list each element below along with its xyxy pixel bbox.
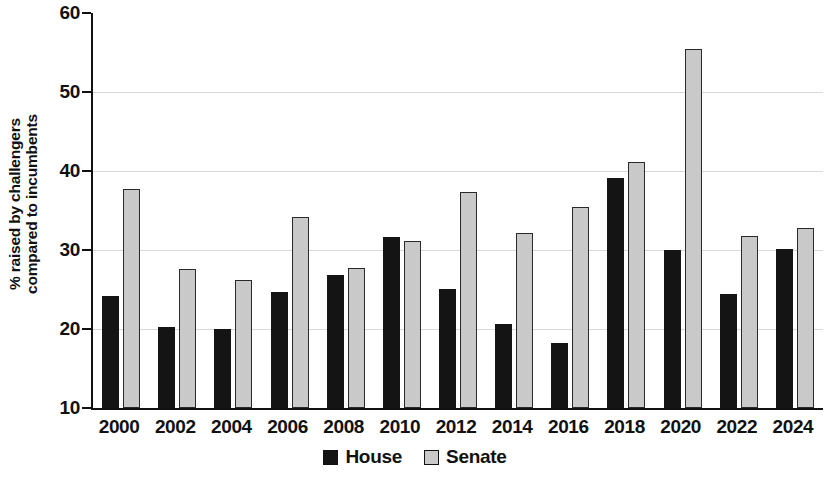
- bar-group-2024: [767, 13, 823, 408]
- bar-group-2006: [261, 13, 317, 408]
- bar-group-2004: [205, 13, 261, 408]
- bar-group-2000: [93, 13, 149, 408]
- bar-house-2012[interactable]: [439, 289, 456, 408]
- bar-group-2016: [542, 13, 598, 408]
- y-tick-label-60: 60: [40, 2, 80, 24]
- x-tick-label-2006: 2006: [259, 414, 315, 444]
- bar-group-2022: [711, 13, 767, 408]
- chart-legend: House Senate: [0, 446, 830, 468]
- bar-senate-2004[interactable]: [235, 280, 252, 408]
- legend-swatch-senate-icon: [424, 450, 439, 465]
- x-tick-label-2024: 2024: [765, 414, 821, 444]
- y-tick-mark-40: [82, 170, 91, 172]
- x-tick-label-2012: 2012: [428, 414, 484, 444]
- y-tick-label-10: 10: [40, 397, 80, 419]
- bar-senate-2012[interactable]: [460, 192, 477, 409]
- plot-area: [91, 13, 823, 410]
- bar-senate-2016[interactable]: [572, 207, 589, 409]
- x-tick-label-2018: 2018: [596, 414, 652, 444]
- x-tick-label-2020: 2020: [653, 414, 709, 444]
- x-tick-label-2002: 2002: [147, 414, 203, 444]
- legend-item-house: House: [323, 446, 402, 468]
- y-tick-label-20: 20: [40, 318, 80, 340]
- y-tick-label-40: 40: [40, 160, 80, 182]
- bar-group-2014: [486, 13, 542, 408]
- bar-house-2016[interactable]: [551, 343, 568, 408]
- legend-swatch-house-icon: [323, 450, 338, 465]
- legend-label-senate: Senate: [446, 446, 507, 468]
- bar-senate-2024[interactable]: [797, 228, 814, 408]
- x-tick-label-2008: 2008: [316, 414, 372, 444]
- y-axis-ticks: 60 50 40 30 20 10: [40, 0, 80, 477]
- bar-house-2004[interactable]: [214, 329, 231, 408]
- bar-senate-2010[interactable]: [404, 241, 421, 408]
- bar-senate-2022[interactable]: [741, 236, 758, 408]
- bar-group-2002: [149, 13, 205, 408]
- bar-house-2018[interactable]: [607, 178, 624, 408]
- y-tick-label-30: 30: [40, 239, 80, 261]
- y-axis-title-line-2: compared to incumbents: [23, 114, 40, 294]
- bar-group-2020: [655, 13, 711, 408]
- bar-senate-2008[interactable]: [348, 268, 365, 408]
- y-tick-label-50: 50: [40, 81, 80, 103]
- x-tick-label-2022: 2022: [709, 414, 765, 444]
- bar-house-2008[interactable]: [327, 275, 344, 409]
- y-axis-title-line-1: % raised by challengers: [6, 118, 23, 290]
- bar-house-2022[interactable]: [720, 294, 737, 408]
- bar-chart: % raised by challengers compared to incu…: [0, 0, 830, 477]
- bar-senate-2006[interactable]: [292, 217, 309, 408]
- x-tick-label-2010: 2010: [372, 414, 428, 444]
- bar-senate-2014[interactable]: [516, 233, 533, 408]
- bar-house-2014[interactable]: [495, 324, 512, 408]
- legend-item-senate: Senate: [424, 446, 507, 468]
- bar-groups: [93, 13, 823, 408]
- bar-senate-2018[interactable]: [628, 162, 645, 408]
- bar-group-2008: [318, 13, 374, 408]
- y-tick-mark-50: [82, 91, 91, 93]
- bar-senate-2002[interactable]: [179, 269, 196, 408]
- bar-house-2000[interactable]: [102, 296, 119, 408]
- bar-house-2024[interactable]: [776, 249, 793, 408]
- x-tick-label-2004: 2004: [203, 414, 259, 444]
- x-axis-labels: 2000200220042006200820102012201420162018…: [91, 414, 821, 444]
- x-tick-label-2014: 2014: [484, 414, 540, 444]
- bar-house-2020[interactable]: [664, 250, 681, 408]
- y-tick-mark-10: [82, 407, 91, 409]
- legend-label-house: House: [345, 446, 402, 468]
- x-tick-label-2000: 2000: [91, 414, 147, 444]
- bar-house-2010[interactable]: [383, 237, 400, 408]
- bar-house-2002[interactable]: [158, 327, 175, 408]
- bar-group-2010: [374, 13, 430, 408]
- bar-house-2006[interactable]: [271, 292, 288, 408]
- y-tick-mark-20: [82, 328, 91, 330]
- bar-senate-2020[interactable]: [685, 49, 702, 408]
- y-tick-mark-60: [82, 12, 91, 14]
- bar-group-2018: [598, 13, 654, 408]
- y-tick-mark-30: [82, 249, 91, 251]
- x-tick-label-2016: 2016: [540, 414, 596, 444]
- bar-group-2012: [430, 13, 486, 408]
- bar-senate-2000[interactable]: [123, 189, 140, 408]
